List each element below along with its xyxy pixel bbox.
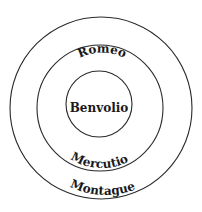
label-montague: Montague	[68, 176, 137, 198]
label-benvolio: Benvolio	[70, 101, 129, 115]
concentric-circle-diagram: Romeo Benvolio Mercutio Montague	[0, 0, 202, 212]
label-mercutio: Mercutio	[69, 149, 130, 171]
label-romeo: Romeo	[76, 42, 129, 61]
